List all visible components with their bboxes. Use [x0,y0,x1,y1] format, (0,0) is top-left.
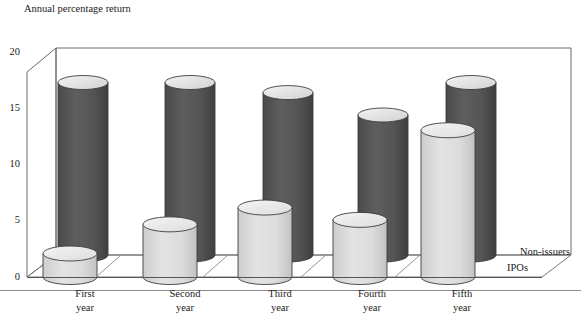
x-label-1: Firstyear [75,288,94,313]
chart-container: 20 15 10 5 0 Annual percentage return Fi… [0,0,581,313]
bar-ipos-2 [143,217,197,285]
y-axis: 20 15 10 5 0 [10,46,21,282]
x-axis-labels: FirstyearSecondyearThirdyearFourthyearFi… [75,288,473,313]
annual-percentage-return-chart: 20 15 10 5 0 Annual percentage return Fi… [0,0,581,313]
bar-ipos-1 [43,246,97,285]
bar-non-issuers-1 [58,76,108,262]
legend-label-ipos: IPOs [507,262,528,273]
x-label-4: Fourthyear [358,288,387,313]
y-tick-15: 15 [10,102,21,113]
legend-label-non-issuers: Non-issuers [520,246,570,257]
y-tick-20: 20 [10,46,21,57]
y-tick-10: 10 [10,158,21,169]
y-tick-5: 5 [15,214,20,225]
bar-ipos-5 [421,123,475,285]
y-tick-0: 0 [15,271,20,282]
chart-title: Annual percentage return [24,3,131,14]
bars-layer [43,76,496,285]
bar-ipos-3 [238,200,292,284]
x-label-2: Secondyear [170,288,202,313]
x-label-5: Fifthyear [452,288,473,313]
bar-ipos-4 [333,212,387,284]
x-label-3: Thirdyear [268,288,292,313]
legend: Non-issuers IPOs [507,246,570,273]
